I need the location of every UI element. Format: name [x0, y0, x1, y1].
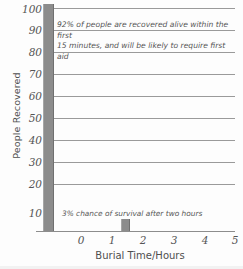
x-axis-tick-labels: 0 1 2 3 4 5	[45, 234, 235, 250]
x-axis-line	[36, 231, 235, 232]
gridline-50	[45, 118, 235, 119]
y-tick-label: 70	[2, 69, 42, 79]
y-tick-label: 90	[2, 25, 42, 35]
x-axis-title: Burial Time/Hours	[45, 250, 235, 261]
x-tick-label: 5	[227, 234, 243, 246]
y-tick-label: 20	[2, 179, 42, 189]
x-tick-label: 4	[197, 234, 213, 246]
y-tick-label: 80	[2, 47, 42, 57]
x-tick-label: 0	[73, 234, 89, 246]
gridline-60	[45, 96, 235, 97]
y-tick-label: 10	[2, 208, 42, 218]
annotation-survival-after-two-hours: 3% chance of survival after two hours	[62, 209, 232, 220]
bar-recovered-first-15-minutes	[43, 4, 54, 231]
x-tick-label: 2	[135, 234, 151, 246]
y-tick-label: 40	[2, 135, 42, 145]
annotation-recovered-first-15-minutes: 92% of people are recovered alive within…	[57, 20, 237, 62]
bar-chart: People Recovered 100 90 80 70 60 50 40 3…	[0, 0, 243, 269]
y-tick-label: 60	[2, 91, 42, 101]
gridline-100	[45, 8, 235, 9]
y-tick-label: 50	[2, 113, 42, 123]
gridline-40	[45, 140, 235, 141]
y-tick-label: 30	[2, 157, 42, 167]
gridline-20	[45, 184, 235, 185]
gridline-30	[45, 162, 235, 163]
y-axis-tick-labels: 100 90 80 70 60 50 40 30 20 10	[0, 8, 42, 230]
x-tick-label: 3	[166, 234, 182, 246]
y-tick-label: 100	[2, 4, 42, 14]
bar-survival-after-two-hours	[121, 219, 130, 231]
gridline-70	[45, 74, 235, 75]
x-tick-label: 1	[104, 234, 120, 246]
